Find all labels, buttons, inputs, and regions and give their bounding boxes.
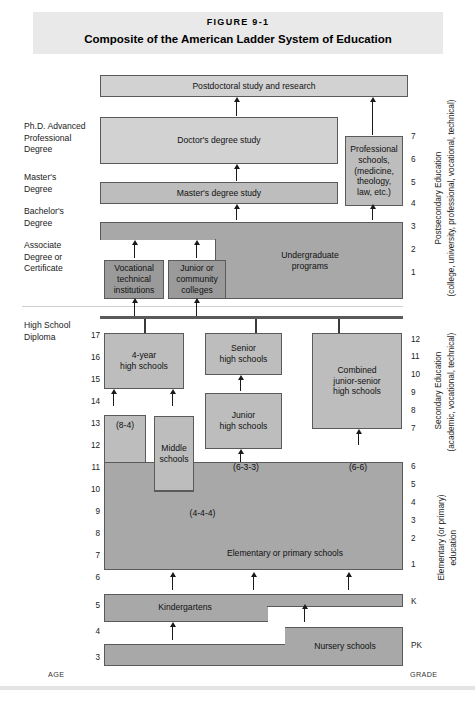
arrow-doctors-to-postdoctoral xyxy=(236,101,237,116)
arrow-kindergarten-to-elementary xyxy=(172,576,173,590)
label-bachelors-degree: Bachelor's Degree xyxy=(24,206,102,229)
grade-secondary-8: 8 xyxy=(411,406,425,415)
arrow-middle-to-4year xyxy=(172,393,173,406)
arrow-undergrad-to-masters xyxy=(236,208,237,220)
grade-secondary-11: 11 xyxy=(411,352,425,361)
bottom-rule xyxy=(0,686,475,690)
arrow-vocational-to-undergrad xyxy=(134,244,135,258)
arrow-nursery-to-kindergarten-2 xyxy=(304,608,305,622)
age-3: 3 xyxy=(86,653,100,662)
age-16: 16 xyxy=(86,353,100,362)
arrow-junior-to-senior-hs xyxy=(240,379,241,391)
label-nursery-schools: Nursery schools xyxy=(290,641,400,652)
arrow-hs-to-junior-college xyxy=(196,302,197,316)
box-masters-degree-study: Master's degree study xyxy=(100,182,338,204)
age-15: 15 xyxy=(86,375,100,384)
age-12: 12 xyxy=(86,441,100,450)
label-masters-degree: Master's Degree xyxy=(24,172,102,195)
grade-secondary-9: 9 xyxy=(411,388,425,397)
box-vocational-technical-institutions: Vocational technical institutions xyxy=(104,260,164,299)
arrow-kindergarten-to-elementary-3 xyxy=(348,576,349,590)
grade-postsecondary-5: 5 xyxy=(411,178,425,187)
arrow-undergrad-to-professional xyxy=(372,208,373,220)
connector-4year-hs xyxy=(144,319,146,333)
caption-elementary-education-2: education xyxy=(439,520,460,580)
box-junior-high-schools: Junior high schools xyxy=(205,393,282,449)
box-undergraduate-programs-top xyxy=(100,222,403,240)
grade-elementary-3: 3 xyxy=(411,516,425,525)
label-kindergartens: Kindergartens xyxy=(110,602,260,613)
arrow-junior-college-to-undergrad xyxy=(196,244,197,258)
grade-postsecondary-6: 6 xyxy=(411,155,425,164)
caption-secondary-detail: (academic, vocational, technical) xyxy=(437,330,458,458)
grade-prekindergarten: PK xyxy=(411,641,425,650)
label-pattern-6-6: (6-6) xyxy=(318,462,398,473)
box-4-year-high-schools: 4-year high schools xyxy=(104,333,184,389)
grade-postsecondary-2: 2 xyxy=(411,245,425,254)
label-elementary-or-primary-schools: Elementary or primary schools xyxy=(170,548,400,559)
connector-combined-hs xyxy=(338,319,340,333)
age-13: 13 xyxy=(86,419,100,428)
label-phd-degree: Ph.D. Advanced Professional Degree xyxy=(24,121,102,156)
grade-postsecondary-7: 7 xyxy=(411,132,425,141)
grade-elementary-1: 1 xyxy=(411,560,425,569)
grade-kindergarten: K xyxy=(411,597,425,606)
age-5: 5 xyxy=(86,601,100,610)
arrow-nursery-to-kindergarten xyxy=(172,626,173,640)
arrow-professional-to-postdoctoral xyxy=(372,101,373,135)
figure-title: Composite of the American Ladder System … xyxy=(33,33,443,45)
grade-secondary-12: 12 xyxy=(411,335,425,344)
label-pattern-4-4-4: (4-4-4) xyxy=(155,508,250,519)
grade-postsecondary-4: 4 xyxy=(411,199,425,208)
age-6: 6 xyxy=(86,573,100,582)
box-senior-high-schools: Senior high schools xyxy=(205,333,282,375)
figure-title-banner: FIGURE 9-1 Composite of the American Lad… xyxy=(33,12,443,54)
divider-upper xyxy=(22,306,403,307)
grade-elementary-2: 2 xyxy=(411,534,425,543)
box-doctors-degree-study: Doctor's degree study xyxy=(100,117,338,164)
caption-postsecondary-detail: (college, university, professional, voca… xyxy=(437,98,458,303)
arrow-masters-to-doctors xyxy=(236,168,237,181)
axis-caption-grade: GRADE xyxy=(410,670,438,679)
box-professional-schools: Professional schools, (medicine, theolog… xyxy=(345,136,403,206)
box-nursery-lower xyxy=(104,644,286,666)
label-pattern-6-3-3: (6-3-3) xyxy=(196,462,296,473)
age-14: 14 xyxy=(86,397,100,406)
age-8: 8 xyxy=(86,529,100,538)
grade-secondary-7: 7 xyxy=(411,424,425,433)
figure-number: FIGURE 9-1 xyxy=(33,17,443,27)
label-pattern-8-4: (8-4) xyxy=(104,420,146,431)
age-11: 11 xyxy=(86,463,100,472)
box-kindergartens-step xyxy=(267,594,403,607)
box-postdoctoral-study: Postdoctoral study and research xyxy=(100,75,408,97)
age-4: 4 xyxy=(86,627,100,636)
age-7: 7 xyxy=(86,551,100,560)
label-associate-degree: Associate Degree or Certificate xyxy=(24,240,102,275)
grade-elementary-6: 6 xyxy=(411,462,425,471)
grade-elementary-4: 4 xyxy=(411,498,425,507)
arrow-elementary-to-combined-hs xyxy=(358,433,359,445)
box-middle-schools: Middle schools xyxy=(154,416,194,491)
arrow-hs-to-vocational xyxy=(134,302,135,316)
box-combined-junior-senior-high-schools: Combined junior-senior high schools xyxy=(312,333,402,429)
grade-secondary-10: 10 xyxy=(411,370,425,379)
box-elementary-left xyxy=(104,462,154,570)
connector-senior-hs xyxy=(255,319,257,333)
grade-elementary-5: 5 xyxy=(411,480,425,489)
age-17: 17 xyxy=(86,331,100,340)
age-9: 9 xyxy=(86,507,100,516)
grade-postsecondary-3: 3 xyxy=(411,222,425,231)
axis-caption-age: AGE xyxy=(48,670,64,679)
arrow-eight-four-to-4year xyxy=(113,393,114,406)
age-10: 10 xyxy=(86,485,100,494)
arrow-kindergarten-to-elementary-2 xyxy=(253,576,254,590)
label-undergraduate-programs: Undergraduate programs xyxy=(245,250,375,272)
grade-postsecondary-1: 1 xyxy=(411,268,425,277)
box-junior-community-colleges: Junior or community colleges xyxy=(168,260,226,299)
